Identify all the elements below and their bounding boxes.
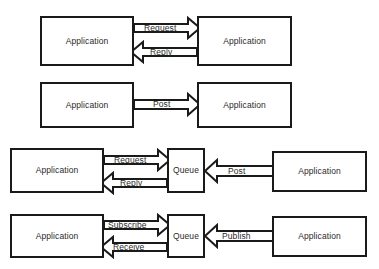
node-label: Application: [66, 37, 109, 46]
node-r1-app-right: Application: [197, 16, 292, 66]
arrow-label-r1-reply: Reply: [150, 48, 172, 57]
arrow-label-r4-subscribe: Subscribe: [108, 221, 147, 230]
node-label: Application: [36, 232, 79, 241]
arrow-label-r3-request: Request: [114, 156, 146, 165]
node-label: Application: [298, 167, 341, 176]
node-r4-queue: Queue: [167, 214, 205, 258]
node-r4-app-left: Application: [10, 214, 104, 258]
node-label: Application: [66, 101, 109, 110]
node-r2-app-left: Application: [40, 82, 134, 128]
node-r4-app-right: Application: [272, 216, 367, 257]
node-r3-queue: Queue: [167, 148, 205, 193]
diagram-canvas: RequestReplyApplicationApplicationPostAp…: [0, 0, 379, 269]
node-label: Application: [223, 37, 266, 46]
arrow-label-r2-post: Post: [153, 100, 170, 109]
node-r3-app-left: Application: [10, 148, 104, 193]
node-label: Application: [36, 166, 79, 175]
node-r1-app-left: Application: [40, 16, 134, 66]
arrow-label-r1-request: Request: [144, 24, 176, 33]
node-label: Application: [223, 101, 266, 110]
node-label: Application: [298, 232, 341, 241]
arrow-label-r3-reply: Reply: [120, 179, 142, 188]
node-label: Queue: [173, 232, 199, 241]
arrow-label-r4-publish: Publish: [222, 232, 251, 241]
arrow-label-r4-receive: Receive: [113, 243, 144, 252]
node-r3-app-right: Application: [272, 151, 367, 192]
node-r2-app-right: Application: [197, 82, 292, 128]
node-label: Queue: [173, 166, 199, 175]
arrow-label-r3-post: Post: [228, 167, 245, 176]
